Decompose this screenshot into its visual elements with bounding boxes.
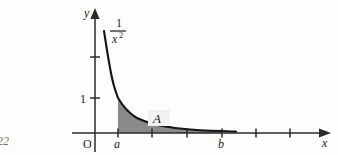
x-axis-label: x xyxy=(321,136,328,150)
curve-label-denominator-base: x xyxy=(111,32,118,46)
graph-figure: 1 x 2 y x O 1 a b A xyxy=(0,0,338,155)
origin-label: O xyxy=(83,137,92,151)
y-axis-arrowhead xyxy=(90,8,99,19)
x-tick-label-a: a xyxy=(114,137,120,151)
figure-page: ​ ​ ​ ​ ​ ​ ​ 1 x 2 xyxy=(0,0,338,155)
curve-label-denominator-exponent: 2 xyxy=(119,31,123,40)
x-tick-label-b: b xyxy=(218,137,224,151)
curve-label-numerator: 1 xyxy=(116,16,122,30)
region-label-A: A xyxy=(152,111,161,126)
y-tick-label-1: 1 xyxy=(80,92,86,106)
y-axis-label: y xyxy=(83,6,90,20)
curve-label-one-over-x-squared: 1 x 2 xyxy=(110,16,126,46)
page-number: 22 xyxy=(0,134,9,149)
